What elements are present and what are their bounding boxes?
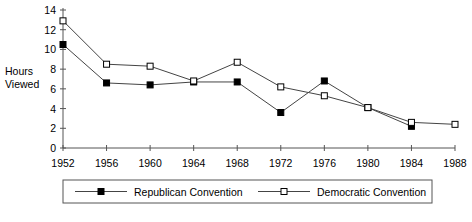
data-point [365,105,371,111]
data-point [234,59,240,65]
data-point [408,119,414,125]
data-point [278,84,284,90]
data-point [60,18,66,24]
legend-marker [281,189,287,195]
y-axis-tick-label: 6 [50,83,56,95]
chart-root: 0246810121419521956196019641968197219761… [0,0,472,222]
data-point [104,61,110,67]
y-axis-tick-label: 8 [50,63,56,75]
y-axis-title: Hours [5,65,33,77]
x-axis-tick-label: 1964 [182,157,206,169]
y-axis-title: Viewed [5,78,39,90]
x-axis-tick-label: 1960 [138,157,162,169]
y-axis-tick-label: 4 [50,103,56,115]
x-axis-tick-label: 1984 [400,157,424,169]
series-democratic [60,18,458,128]
x-axis-tick-label: 1976 [313,157,337,169]
legend-label: Democratic Convention [317,186,426,198]
legend-item-republican[interactable]: Republican Convention [75,186,243,198]
x-axis-tick-label: 1980 [356,157,380,169]
series-line [63,21,455,125]
data-point [60,42,66,48]
y-axis-tick-label: 12 [44,24,56,36]
y-axis-tick-label: 14 [44,4,56,16]
data-point [452,121,458,127]
x-axis-tick-label: 1952 [51,157,75,169]
data-point [321,78,327,84]
series-republican [60,42,414,130]
y-axis-tick-label: 10 [44,43,56,55]
legend: Republican ConventionDemocratic Conventi… [63,180,432,203]
y-axis-tick-label: 0 [50,142,56,154]
x-axis-tick-label: 1972 [269,157,293,169]
data-point [104,80,110,86]
x-axis-tick-label: 1988 [443,157,467,169]
data-point [278,110,284,116]
legend-item-democratic[interactable]: Democratic Convention [258,186,426,198]
legend-marker [98,189,104,195]
x-axis-tick-label: 1956 [95,157,119,169]
data-point [147,63,153,69]
line-chart: 0246810121419521956196019641968197219761… [0,0,472,222]
y-axis-tick-label: 2 [50,122,56,134]
x-axis-tick-label: 1968 [226,157,250,169]
chart-canvas: 0246810121419521956196019641968197219761… [0,0,472,222]
data-point [147,82,153,88]
data-point [234,79,240,85]
legend-label: Republican Convention [134,186,243,198]
data-point [191,78,197,84]
data-point [321,93,327,99]
